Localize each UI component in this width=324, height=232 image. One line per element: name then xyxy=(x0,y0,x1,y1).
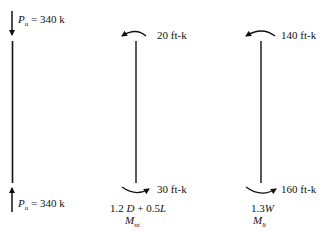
load-subscript: u xyxy=(25,204,29,212)
load-subscript: u xyxy=(25,20,29,28)
moment-symbol: M xyxy=(253,214,262,226)
nt-top-moment-label: 20 ft-k xyxy=(157,30,187,41)
lt-top-moment-label: 140 ft-k xyxy=(281,30,316,41)
load-value: = 340 k xyxy=(31,13,65,25)
wind-load-symbol: W xyxy=(265,202,274,214)
load-symbol: P xyxy=(18,197,25,209)
moment-symbol: M xyxy=(125,214,134,226)
coef-1: 1.2 xyxy=(110,202,127,214)
lt-bottom-moment-label: 160 ft-k xyxy=(281,184,316,195)
nt-column xyxy=(122,32,149,193)
bottom-load-label: Pu = 340 k xyxy=(18,198,65,211)
nt-bottom-moment-arc xyxy=(122,187,149,193)
coef-1: 1.3 xyxy=(251,202,265,214)
axial-column xyxy=(12,11,13,212)
nt-moment-symbol: Mnt xyxy=(125,215,140,228)
nt-combination-label: 1.2 D + 0.5L xyxy=(110,203,166,214)
lt-combination-label: 1.3W xyxy=(251,203,274,214)
load-symbol: P xyxy=(18,13,25,25)
top-load-label: Pu = 340 k xyxy=(18,14,65,27)
nt-top-moment-arc xyxy=(122,32,146,37)
coef-2: + 0.5 xyxy=(134,202,159,214)
nt-bottom-moment-label: 30 ft-k xyxy=(157,184,187,195)
lt-column xyxy=(246,31,276,193)
load-value: = 340 k xyxy=(31,197,65,209)
live-load-symbol: L xyxy=(160,202,166,214)
moment-subscript: lt xyxy=(262,221,266,229)
moment-subscript: nt xyxy=(134,221,139,229)
lt-bottom-moment-arc xyxy=(246,187,276,193)
lt-moment-symbol: Mlt xyxy=(253,215,266,228)
lt-top-moment-arc xyxy=(246,31,275,36)
